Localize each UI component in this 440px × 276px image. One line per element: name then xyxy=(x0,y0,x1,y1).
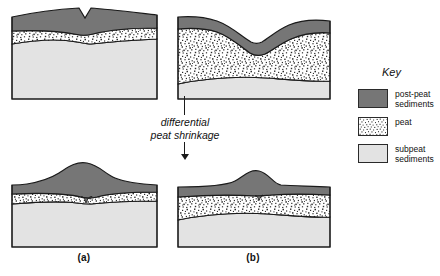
legend-row-peat: peat xyxy=(358,117,440,136)
arrow-line-upper xyxy=(184,96,185,115)
down-arrow-icon xyxy=(181,154,189,160)
panel-label-b: (b) xyxy=(225,252,281,263)
peat-pattern-fill xyxy=(359,118,387,135)
legend-row-subpeat: subpeat sediments xyxy=(358,144,440,164)
layer-peat xyxy=(178,28,330,84)
process-arrow-caption: differential peat shrinkage xyxy=(130,116,240,141)
layer-subpeat-sediments xyxy=(178,213,330,247)
panel-a-after-svg xyxy=(11,160,158,248)
cross-section-panel-a-after xyxy=(11,160,158,248)
layer-subpeat-sediments xyxy=(12,39,157,99)
cross-section-panel-b-after xyxy=(177,160,331,248)
process-arrow-group: differential peat shrinkage xyxy=(130,96,240,160)
legend-swatch-postpeat-icon xyxy=(358,89,388,108)
legend-label-subpeat: subpeat sediments xyxy=(395,144,434,164)
legend-label-peat: peat xyxy=(395,117,412,127)
legend-swatch-subpeat-icon xyxy=(358,144,388,163)
layer-post-peat-sediments xyxy=(12,163,157,198)
panel-b-before-svg xyxy=(177,6,331,100)
layer-post-peat-sediments xyxy=(178,171,330,197)
layer-subpeat-sediments xyxy=(12,201,157,247)
legend-label-post-peat: post-peat sediments xyxy=(395,89,434,109)
legend-title: Key xyxy=(382,66,440,78)
panel-a-before-svg xyxy=(11,6,158,100)
legend-row-post-peat: post-peat sediments xyxy=(358,89,440,109)
panel-label-a: (a) xyxy=(56,252,112,263)
figure-root: differential peat shrinkage (a) (b) Key … xyxy=(0,0,440,276)
cross-section-panel-a-before xyxy=(11,6,158,100)
panel-b-after-svg xyxy=(177,160,331,248)
cross-section-panel-b-before xyxy=(177,6,331,100)
legend-swatch-peat-icon xyxy=(358,117,388,136)
legend-key: Key post-peat sediments peat subpeat sed… xyxy=(358,66,440,172)
